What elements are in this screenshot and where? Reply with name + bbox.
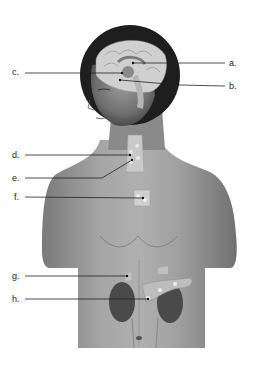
label-a: a. bbox=[229, 58, 237, 68]
label-e: e. bbox=[12, 173, 20, 183]
label-c: c. bbox=[12, 67, 19, 77]
label-f: f. bbox=[14, 192, 19, 202]
anatomy-figure bbox=[0, 0, 257, 372]
thyroid-gland bbox=[126, 135, 144, 172]
label-h: h. bbox=[12, 294, 20, 304]
label-b: b. bbox=[229, 81, 237, 91]
label-g: g. bbox=[12, 271, 20, 281]
head bbox=[80, 25, 180, 126]
label-d: d. bbox=[12, 150, 20, 160]
